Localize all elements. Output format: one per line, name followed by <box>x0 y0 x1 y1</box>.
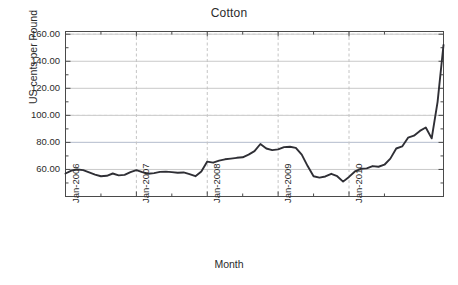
horizontal-gridlines <box>66 34 444 169</box>
x-tick-label: Jan-2006 <box>70 163 81 203</box>
vertical-gridlines <box>66 32 350 197</box>
y-tick-label: 80.00 <box>6 136 60 147</box>
x-tick-label: Jan-2009 <box>282 163 293 203</box>
series-line <box>66 45 444 182</box>
axis-frame <box>66 32 444 197</box>
x-tick-label: Jan-2008 <box>211 163 222 203</box>
data-series <box>66 45 444 182</box>
plot-area <box>0 0 458 285</box>
y-tick-label: 100.00 <box>6 109 60 120</box>
y-tick-label: 60.00 <box>6 163 60 174</box>
y-tick-label: 140.00 <box>6 55 60 66</box>
chart-container: Cotton US cents per Pound Month 160.0014… <box>0 0 458 285</box>
x-tick-label: Jan-2007 <box>140 163 151 203</box>
x-tick-label: Jan-2010 <box>353 163 364 203</box>
axis-ticks <box>66 32 444 197</box>
y-tick-label: 120.00 <box>6 82 60 93</box>
y-tick-label: 160.00 <box>6 28 60 39</box>
